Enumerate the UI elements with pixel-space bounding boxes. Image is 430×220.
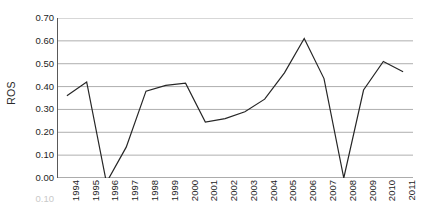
x-tick-label: 1995 bbox=[91, 180, 101, 201]
y-tick-label: 0.50 bbox=[22, 59, 54, 69]
plot-area bbox=[57, 18, 413, 178]
x-tick-label: 2000 bbox=[190, 180, 200, 201]
x-tick-label: 1999 bbox=[170, 180, 180, 201]
y-tick-label: 0.70 bbox=[22, 13, 54, 23]
x-tick-label: 2008 bbox=[348, 180, 358, 201]
y-tick-label: 0.60 bbox=[22, 36, 54, 46]
x-tick-label: 2011 bbox=[407, 180, 417, 200]
y-axis-tick-labels: 0.700.600.500.400.300.200.100.000.10 bbox=[22, 0, 54, 220]
x-tick-label: 2003 bbox=[249, 180, 259, 201]
x-tick-label: 2001 bbox=[209, 180, 219, 201]
x-tick-label: 1998 bbox=[150, 180, 160, 201]
x-tick-label: 1994 bbox=[71, 180, 81, 201]
y-tick-label: 0.40 bbox=[22, 82, 54, 92]
x-tick-label: 2009 bbox=[368, 180, 378, 201]
y-tick-label-artifact: 0.10 bbox=[22, 194, 54, 204]
y-tick-label: 0.10 bbox=[22, 150, 54, 160]
y-tick-label: 0.30 bbox=[22, 104, 54, 114]
y-tick-label: 0.00 bbox=[22, 173, 54, 183]
y-axis-title: ROS bbox=[0, 0, 22, 186]
x-tick-label: 2004 bbox=[269, 180, 279, 201]
plot-svg bbox=[57, 18, 413, 178]
ros-data-line bbox=[67, 39, 403, 178]
x-tick-label: 2006 bbox=[308, 180, 318, 201]
x-tick-label: 1996 bbox=[110, 180, 120, 201]
x-tick-label: 2010 bbox=[387, 180, 397, 201]
ros-line-chart: ROS 0.700.600.500.400.300.200.100.000.10… bbox=[0, 0, 430, 220]
x-tick-label: 2005 bbox=[288, 180, 298, 201]
y-axis-title-label: ROS bbox=[5, 81, 17, 104]
x-tick-label: 1997 bbox=[130, 180, 140, 201]
gridlines bbox=[57, 18, 413, 155]
axis-lines bbox=[57, 18, 413, 178]
x-tick-label: 2002 bbox=[229, 180, 239, 201]
y-tick-label: 0.20 bbox=[22, 127, 54, 137]
x-axis-tick-labels: 1994199519961997199819992000200120022003… bbox=[57, 180, 413, 220]
x-tick-label: 2007 bbox=[328, 180, 338, 201]
